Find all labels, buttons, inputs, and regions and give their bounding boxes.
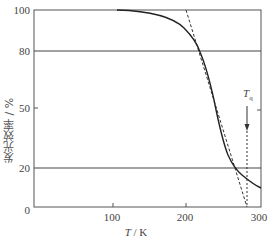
efficiency-curve [117, 10, 261, 188]
x-axis-title: T / K [125, 226, 148, 238]
x-ticks [113, 203, 186, 207]
x-tick-label-200: 200 [177, 211, 194, 223]
y-tick-label-80: 80 [19, 45, 31, 57]
chart: 100 80 50 20 0 100 200 300 T / K Tq [0, 0, 273, 243]
y-tick-label-20: 20 [19, 162, 31, 174]
x-axis-title-unit: / K [131, 226, 148, 238]
plot-frame [34, 10, 261, 207]
tq-arrow-head [245, 124, 250, 131]
tangent-dashed-line [186, 10, 247, 207]
y-ticks [34, 108, 261, 110]
y-tick-label-0: 0 [25, 204, 31, 216]
tq-label: Tq [243, 87, 253, 102]
x-tick-label-300: 300 [251, 211, 268, 223]
x-tick-label-100: 100 [104, 211, 121, 223]
y-tick-label-100: 100 [14, 4, 31, 16]
y-axis-title: 发光效率 / % [2, 80, 18, 180]
y-tick-label-50: 50 [19, 102, 31, 114]
